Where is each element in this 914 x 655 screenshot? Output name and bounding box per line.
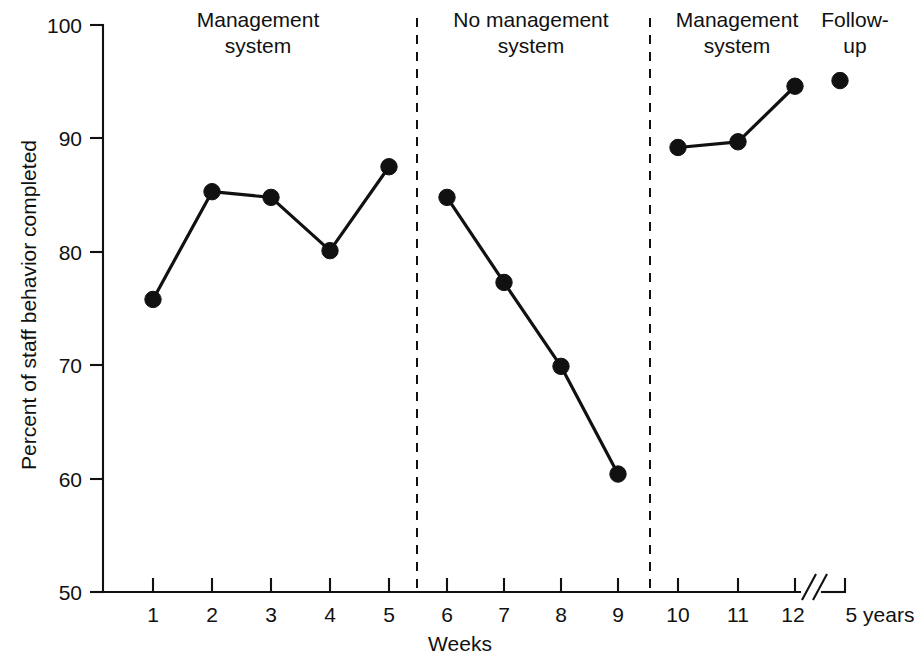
data-point: [145, 291, 161, 307]
data-point: [381, 159, 397, 175]
y-tick-label-50: 50: [59, 581, 82, 604]
data-point: [610, 466, 626, 482]
x-tick-label-2: 2: [206, 603, 218, 626]
data-point: [730, 134, 746, 150]
phase-label-1-line2: system: [225, 34, 292, 57]
x-tick-label-9: 9: [612, 603, 624, 626]
phase-label-2-line2: system: [498, 34, 565, 57]
x-tick-label-7: 7: [498, 603, 510, 626]
axis-break-slash-2: [813, 574, 827, 600]
series-line-segment: [153, 167, 389, 300]
x-tick-label-5-years: 5 years: [846, 603, 914, 626]
phase-label-3-line1: Management: [676, 8, 799, 31]
y-tick-label-80: 80: [59, 241, 82, 264]
data-point: [204, 183, 220, 199]
y-tick-label-70: 70: [59, 354, 82, 377]
phase-label-1-line1: Management: [197, 8, 320, 31]
y-tick-label-60: 60: [59, 468, 82, 491]
x-tick-label-3: 3: [265, 603, 277, 626]
x-tick-label-1: 1: [147, 603, 159, 626]
phase-label-3-line2: system: [704, 34, 771, 57]
x-tick-label-11: 11: [727, 603, 749, 626]
data-point: [832, 72, 848, 88]
data-point: [670, 139, 686, 155]
x-tick-label-8: 8: [555, 603, 567, 626]
x-tick-label-6: 6: [441, 603, 453, 626]
series-line-segment: [447, 197, 618, 474]
x-axis-title: Weeks: [428, 632, 492, 655]
y-tick-label-100: 100: [47, 14, 82, 37]
y-tick-label-90: 90: [59, 127, 82, 150]
data-point: [787, 78, 803, 94]
axis-break-slash-1: [802, 574, 816, 600]
x-tick-label-12: 12: [781, 603, 804, 626]
data-point: [553, 358, 569, 374]
phase-label-4-line1: Follow-: [821, 8, 889, 31]
x-tick-label-10: 10: [666, 603, 689, 626]
y-axis-title: Percent of staff behavior completed: [17, 140, 40, 470]
phase-label-2-line1: No management: [453, 8, 608, 31]
phase-label-4-line2: up: [843, 34, 866, 57]
data-point: [263, 189, 279, 205]
chart-canvas: Percent of staff behavior completed 100 …: [0, 0, 914, 655]
data-series-layer: [145, 72, 848, 482]
data-point: [439, 189, 455, 205]
x-tick-label-4: 4: [324, 603, 336, 626]
x-tick-label-5: 5: [383, 603, 395, 626]
data-point: [496, 274, 512, 290]
chart-figure: Percent of staff behavior completed 100 …: [0, 0, 914, 655]
data-point: [322, 242, 338, 258]
